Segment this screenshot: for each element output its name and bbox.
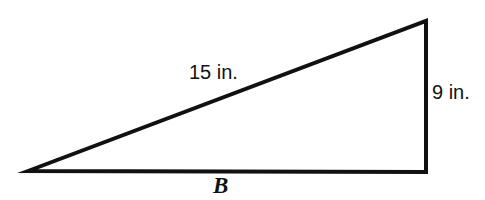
height-label: 9 in. — [432, 82, 470, 102]
base-label: B — [213, 174, 228, 197]
triangle-shape — [0, 0, 485, 200]
triangle-outline — [28, 21, 426, 172]
triangle-diagram: 15 in. 9 in. B — [0, 0, 485, 200]
hypotenuse-label: 15 in. — [189, 62, 238, 82]
